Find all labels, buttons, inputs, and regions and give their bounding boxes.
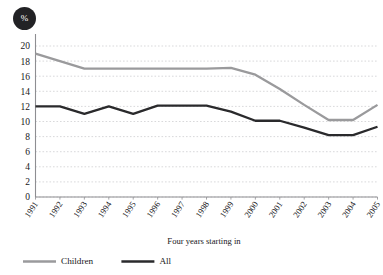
legend-label-all: All (159, 256, 171, 266)
series-group (36, 54, 378, 136)
y-axis-tick-label: 8 (25, 132, 30, 142)
x-axis-tick-label: 1996 (144, 199, 162, 219)
y-axis-tick-label: 2 (25, 177, 30, 187)
chart-canvas: 02468101214161820 1991199219931994199519… (0, 0, 383, 275)
x-axis-tick-label: 2003 (315, 200, 333, 220)
x-axis-tick-label: 2005 (364, 200, 382, 220)
x-axis-tick-label: 1998 (193, 200, 211, 220)
series-line-children (36, 54, 378, 120)
x-axis-group: 1991199219931994199519961997199819992000… (22, 197, 382, 219)
x-axis-tick-label: 2004 (340, 199, 358, 219)
axis-title-group: Four years starting in (167, 236, 241, 246)
x-axis-tick-label: 1997 (169, 199, 187, 219)
y-axis-tick-label: 16 (21, 72, 31, 82)
y-axis-tick-label: 18 (21, 57, 31, 67)
line-chart: % 02468101214161820 19911992199319941995… (0, 0, 383, 275)
legend-label-children: Children (61, 256, 94, 266)
x-axis-tick-label: 2000 (242, 200, 260, 220)
y-axis-tick-label: 20 (21, 41, 31, 51)
y-axis-tick-label: 10 (21, 117, 31, 127)
x-axis-tick-label: 1994 (96, 199, 114, 219)
x-axis-tick-label: 1993 (71, 200, 89, 220)
x-axis-title: Four years starting in (167, 236, 241, 246)
series-line-all (36, 106, 378, 135)
percent-badge: % (13, 7, 36, 30)
x-axis-tick-label: 2001 (267, 200, 285, 220)
y-axis-group: 02468101214161820 (21, 34, 36, 202)
x-axis-tick-label: 2002 (291, 200, 309, 220)
y-axis-tick-label: 4 (25, 162, 30, 172)
y-axis-tick-label: 14 (21, 87, 31, 97)
legend-group: ChildrenAll (23, 256, 172, 266)
x-axis-tick-label: 1999 (218, 200, 236, 220)
x-axis-tick-label: 1995 (120, 200, 138, 220)
x-axis-tick-label: 1991 (22, 200, 40, 220)
y-axis-tick-label: 12 (21, 102, 31, 112)
y-axis-tick-label: 6 (25, 147, 30, 157)
y-axis-tick-label: 0 (25, 192, 30, 202)
x-axis-tick-label: 1992 (47, 200, 65, 220)
